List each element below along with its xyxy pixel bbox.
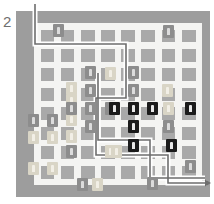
marker-glyph-icon bbox=[115, 148, 118, 155]
marker-glyph-icon bbox=[132, 87, 135, 94]
marker-glyph-icon bbox=[132, 123, 135, 130]
building-marker-light bbox=[66, 82, 77, 95]
building-marker-light bbox=[28, 131, 39, 144]
marker-glyph-icon bbox=[132, 142, 135, 149]
marker-glyph-icon bbox=[132, 105, 135, 112]
city-block bbox=[141, 88, 155, 101]
building-marker-mid bbox=[128, 66, 139, 79]
city-block bbox=[141, 127, 155, 140]
marker-glyph-icon bbox=[167, 105, 170, 112]
marker-glyph-icon bbox=[89, 105, 92, 112]
city-block bbox=[101, 30, 115, 43]
city-block bbox=[182, 30, 196, 43]
city-block bbox=[81, 166, 95, 179]
city-block bbox=[141, 68, 155, 81]
building-marker-dark bbox=[147, 102, 158, 115]
marker-glyph-icon bbox=[70, 85, 73, 92]
building-marker-light bbox=[28, 162, 39, 175]
building-marker-mid bbox=[28, 114, 39, 127]
figure-panel: 2 bbox=[0, 0, 214, 204]
city-block bbox=[162, 68, 176, 81]
building-marker-light bbox=[66, 130, 77, 143]
marker-glyph-icon bbox=[132, 69, 135, 76]
marker-glyph-icon bbox=[32, 117, 35, 124]
building-marker-mid bbox=[85, 102, 96, 115]
marker-glyph-icon bbox=[151, 180, 154, 187]
city-block bbox=[101, 88, 115, 101]
city-block bbox=[162, 49, 176, 62]
building-marker-mid bbox=[147, 177, 158, 190]
marker-glyph-icon bbox=[70, 116, 73, 123]
marker-glyph-icon bbox=[51, 134, 54, 141]
marker-glyph-icon bbox=[51, 165, 54, 172]
building-marker-mid bbox=[47, 114, 58, 127]
building-marker-light bbox=[92, 178, 103, 191]
marker-glyph-icon bbox=[32, 134, 35, 141]
marker-glyph-icon bbox=[70, 148, 73, 155]
marker-glyph-icon bbox=[151, 105, 154, 112]
panel-label: 2 bbox=[3, 14, 11, 29]
city-block bbox=[162, 166, 176, 179]
marker-glyph-icon bbox=[51, 117, 54, 124]
building-marker-dark bbox=[128, 139, 139, 152]
building-marker-light bbox=[47, 162, 58, 175]
marker-glyph-icon bbox=[96, 181, 99, 188]
marker-glyph-icon bbox=[89, 69, 92, 76]
building-marker-mid bbox=[77, 178, 88, 191]
city-block bbox=[101, 127, 115, 140]
building-marker-mid bbox=[163, 25, 174, 38]
city-block bbox=[182, 49, 196, 62]
marker-glyph-icon bbox=[170, 142, 173, 149]
city-block bbox=[121, 49, 135, 62]
city-block bbox=[61, 68, 75, 81]
building-marker-mid bbox=[85, 120, 96, 133]
marker-glyph-icon bbox=[70, 133, 73, 140]
building-marker-light bbox=[111, 145, 122, 158]
city-block bbox=[81, 146, 95, 159]
city-block bbox=[182, 88, 196, 101]
building-marker-dark bbox=[128, 120, 139, 133]
city-block bbox=[81, 30, 95, 43]
city-block bbox=[141, 49, 155, 62]
city-block bbox=[61, 49, 75, 62]
city-block bbox=[41, 49, 55, 62]
building-marker-mid bbox=[163, 120, 174, 133]
building-marker-mid bbox=[128, 84, 139, 97]
building-marker-mid bbox=[66, 102, 77, 115]
city-block bbox=[101, 49, 115, 62]
city-block bbox=[41, 146, 55, 159]
building-marker-mid bbox=[185, 160, 196, 173]
marker-glyph-icon bbox=[57, 27, 60, 34]
building-marker-light bbox=[47, 131, 58, 144]
marker-glyph-icon bbox=[89, 123, 92, 130]
marker-glyph-icon bbox=[81, 181, 84, 188]
marker-glyph-icon bbox=[32, 165, 35, 172]
marker-glyph-icon bbox=[167, 123, 170, 130]
marker-glyph-icon bbox=[189, 105, 192, 112]
marker-glyph-icon bbox=[113, 105, 116, 112]
city-block bbox=[121, 30, 135, 43]
building-marker-light bbox=[163, 102, 174, 115]
building-marker-mid bbox=[53, 24, 64, 37]
city-block bbox=[41, 88, 55, 101]
marker-glyph-icon bbox=[70, 105, 73, 112]
city-block bbox=[182, 146, 196, 159]
building-marker-dark bbox=[166, 139, 177, 152]
city-block bbox=[141, 146, 155, 159]
city-block bbox=[81, 49, 95, 62]
marker-glyph-icon bbox=[109, 70, 112, 77]
building-marker-mid bbox=[85, 84, 96, 97]
building-marker-dark bbox=[128, 102, 139, 115]
building-marker-light bbox=[105, 67, 116, 80]
building-marker-mid bbox=[66, 145, 77, 158]
marker-glyph-icon bbox=[89, 87, 92, 94]
city-block bbox=[182, 127, 196, 140]
marker-glyph-icon bbox=[189, 163, 192, 170]
city-block bbox=[41, 68, 55, 81]
building-marker-light bbox=[162, 84, 173, 97]
city-block bbox=[61, 166, 75, 179]
city-block bbox=[141, 30, 155, 43]
marker-glyph-icon bbox=[167, 28, 170, 35]
marker-glyph-icon bbox=[166, 87, 169, 94]
city-block bbox=[182, 68, 196, 81]
